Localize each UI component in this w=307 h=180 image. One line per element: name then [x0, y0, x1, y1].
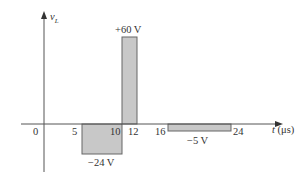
pulse-label-negative-5v: −5 V	[187, 135, 209, 146]
tick-label-16: 16	[155, 126, 166, 137]
pulse-label-positive-60v: +60 V	[115, 24, 142, 35]
pulse-positive-60v	[122, 37, 137, 124]
pulse-negative-5v	[168, 124, 231, 131]
x-axis-label: t (μs)	[272, 124, 295, 136]
tick-label-24: 24	[233, 126, 244, 137]
inductor-voltage-diagram: vL t (μs) 0 5 10 12 16 24 +60 V −24 V −5…	[0, 0, 307, 180]
tick-label-10: 10	[110, 126, 121, 137]
tick-label-5: 5	[72, 126, 77, 137]
y-axis-label: vL	[50, 11, 59, 25]
y-axis-arrow-icon	[41, 11, 47, 19]
pulse-label-negative-24v: −24 V	[88, 157, 115, 168]
tick-label-0: 0	[33, 126, 38, 137]
tick-label-12: 12	[128, 126, 139, 137]
